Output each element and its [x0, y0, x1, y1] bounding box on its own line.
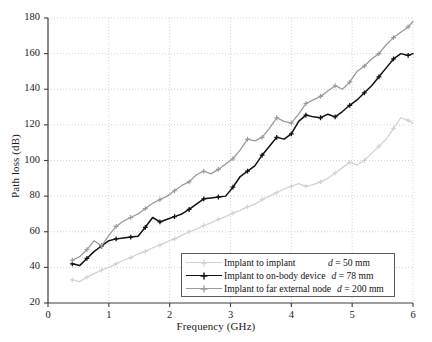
y-tick-label: 40: [6, 260, 40, 271]
legend-distance-implant-to-on-body-device: d = 78 mm: [326, 270, 394, 281]
x-tick-label: 5: [342, 309, 362, 320]
plus-marker-icon: [216, 217, 221, 222]
series-line-2: [72, 22, 413, 261]
series-markers-1: [70, 53, 411, 266]
plus-marker-icon: [114, 261, 119, 266]
plus-marker-icon: [245, 204, 250, 209]
legend-item-implant-to-on-body-device: Implant to on-body device d = 78 mm: [186, 269, 390, 282]
path-loss-chart: Frequency (GHz) Path loss (dB) 204060801…: [0, 0, 432, 342]
legend-item-implant-to-far-external-node: Implant to far external node d = 200 mm: [186, 282, 390, 295]
plus-marker-icon: [216, 195, 221, 200]
y-tick-label: 60: [6, 225, 40, 236]
plus-marker-icon: [114, 236, 119, 241]
plus-marker-icon: [187, 229, 192, 234]
x-tick-label: 6: [403, 309, 423, 320]
legend-label-implant-to-implant: Implant to implant: [224, 257, 322, 268]
x-tick-label: 3: [221, 309, 241, 320]
plus-marker-icon: [128, 255, 133, 260]
plus-marker-icon: [318, 179, 323, 184]
y-tick-label: 120: [6, 118, 40, 129]
plus-marker-icon: [200, 259, 208, 267]
plus-marker-icon: [70, 277, 75, 282]
x-tick-label: 0: [38, 309, 58, 320]
plus-marker-icon: [406, 53, 411, 58]
series-line-1: [72, 54, 413, 266]
series-markers-2: [70, 25, 411, 263]
plus-marker-icon: [201, 223, 206, 228]
plus-marker-icon: [200, 285, 208, 293]
legend-label-implant-to-far-external-node: Implant to far external node: [224, 283, 331, 294]
legend-line-sample-icon: [186, 283, 222, 295]
plus-marker-icon: [274, 190, 279, 195]
plus-marker-icon: [231, 211, 236, 216]
plus-marker-icon: [128, 215, 133, 220]
plus-marker-icon: [304, 184, 309, 189]
y-tick-label: 100: [6, 154, 40, 165]
y-tick-label: 180: [6, 11, 40, 22]
plus-marker-icon: [318, 115, 323, 120]
legend-distance-implant-to-far-external-node: d = 200 mm: [331, 283, 399, 294]
plus-marker-icon: [406, 118, 411, 123]
y-axis-title-wrapper: Path loss (dB): [5, 66, 23, 266]
legend-distance-implant-to-implant: d = 50 mm: [322, 257, 390, 268]
y-tick-label: 160: [6, 47, 40, 58]
plus-marker-icon: [99, 268, 104, 273]
plus-marker-icon: [201, 169, 206, 174]
plus-marker-icon: [200, 272, 208, 280]
plus-marker-icon: [143, 249, 148, 254]
plus-marker-icon: [158, 243, 163, 248]
plus-marker-icon: [172, 214, 177, 219]
x-tick-label: 4: [281, 309, 301, 320]
y-tick-label: 140: [6, 82, 40, 93]
legend-line-sample-icon: [186, 257, 222, 269]
x-tick-label: 1: [99, 309, 119, 320]
legend-line-sample-icon: [186, 270, 222, 282]
plus-marker-icon: [289, 184, 294, 189]
chart-legend: Implant to implant d = 50 mm Implant to …: [181, 253, 395, 297]
x-tick-label: 2: [160, 309, 180, 320]
y-tick-label: 20: [6, 296, 40, 307]
plus-marker-icon: [172, 236, 177, 241]
plus-marker-icon: [128, 235, 133, 240]
plus-marker-icon: [158, 197, 163, 202]
y-tick-label: 80: [6, 189, 40, 200]
legend-item-implant-to-implant: Implant to implant d = 50 mm: [186, 256, 390, 269]
plus-marker-icon: [70, 258, 75, 263]
x-axis-title: Frequency (GHz): [0, 320, 432, 332]
legend-label-implant-to-on-body-device: Implant to on-body device: [224, 270, 326, 281]
